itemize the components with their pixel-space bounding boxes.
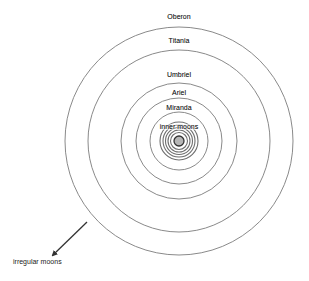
label-titania: Titania [169,37,190,44]
uranus-planet-icon [174,136,184,146]
irregular-moons-arrow-icon [53,222,87,255]
label-oberon: Oberon [167,13,190,20]
irregular-moons-label: irregular moons [13,258,62,266]
label-ariel: Ariel [172,89,186,96]
label-miranda: Miranda [166,104,191,111]
label-inner-moons: inner moons [160,123,199,130]
label-umbriel: Umbriel [167,71,192,78]
uranus-moons-diagram: OberonOberonTitaniaTitaniaUmbrielUmbriel… [0,0,309,281]
